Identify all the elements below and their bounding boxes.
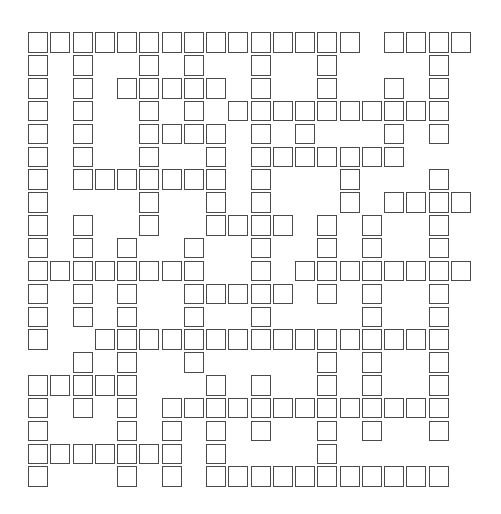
crossword-cell[interactable] bbox=[73, 32, 93, 53]
crossword-cell[interactable] bbox=[28, 169, 48, 190]
crossword-cell[interactable] bbox=[206, 215, 226, 236]
crossword-cell[interactable] bbox=[251, 78, 271, 99]
crossword-cell[interactable] bbox=[362, 329, 382, 350]
crossword-cell[interactable] bbox=[162, 398, 182, 419]
crossword-cell[interactable] bbox=[406, 101, 426, 122]
crossword-cell[interactable] bbox=[340, 398, 360, 419]
crossword-cell[interactable] bbox=[117, 261, 137, 282]
crossword-cell[interactable] bbox=[251, 101, 271, 122]
crossword-cell[interactable] bbox=[251, 124, 271, 145]
crossword-cell[interactable] bbox=[28, 124, 48, 145]
crossword-cell[interactable] bbox=[273, 32, 293, 53]
crossword-cell[interactable] bbox=[28, 421, 48, 442]
crossword-cell[interactable] bbox=[228, 215, 248, 236]
crossword-cell[interactable] bbox=[28, 375, 48, 396]
crossword-cell[interactable] bbox=[429, 192, 449, 213]
crossword-cell[interactable] bbox=[340, 169, 360, 190]
crossword-cell[interactable] bbox=[429, 215, 449, 236]
crossword-cell[interactable] bbox=[162, 32, 182, 53]
crossword-cell[interactable] bbox=[317, 147, 337, 168]
crossword-cell[interactable] bbox=[28, 147, 48, 168]
crossword-cell[interactable] bbox=[139, 329, 159, 350]
crossword-cell[interactable] bbox=[184, 352, 204, 373]
crossword-cell[interactable] bbox=[317, 421, 337, 442]
crossword-cell[interactable] bbox=[139, 261, 159, 282]
crossword-cell[interactable] bbox=[184, 32, 204, 53]
crossword-cell[interactable] bbox=[317, 375, 337, 396]
crossword-cell[interactable] bbox=[184, 55, 204, 76]
crossword-cell[interactable] bbox=[340, 32, 360, 53]
crossword-cell[interactable] bbox=[117, 398, 137, 419]
crossword-cell[interactable] bbox=[251, 32, 271, 53]
crossword-cell[interactable] bbox=[317, 78, 337, 99]
crossword-cell[interactable] bbox=[251, 329, 271, 350]
crossword-cell[interactable] bbox=[184, 124, 204, 145]
crossword-cell[interactable] bbox=[95, 169, 115, 190]
crossword-cell[interactable] bbox=[362, 284, 382, 305]
crossword-cell[interactable] bbox=[206, 444, 226, 465]
crossword-cell[interactable] bbox=[362, 421, 382, 442]
crossword-cell[interactable] bbox=[273, 398, 293, 419]
crossword-cell[interactable] bbox=[206, 421, 226, 442]
crossword-cell[interactable] bbox=[28, 444, 48, 465]
crossword-cell[interactable] bbox=[73, 101, 93, 122]
crossword-cell[interactable] bbox=[251, 421, 271, 442]
crossword-cell[interactable] bbox=[340, 101, 360, 122]
crossword-cell[interactable] bbox=[50, 32, 70, 53]
crossword-cell[interactable] bbox=[139, 147, 159, 168]
crossword-cell[interactable] bbox=[362, 375, 382, 396]
crossword-cell[interactable] bbox=[184, 398, 204, 419]
crossword-cell[interactable] bbox=[206, 192, 226, 213]
crossword-cell[interactable] bbox=[139, 169, 159, 190]
crossword-cell[interactable] bbox=[451, 192, 471, 213]
crossword-cell[interactable] bbox=[73, 261, 93, 282]
crossword-cell[interactable] bbox=[429, 261, 449, 282]
crossword-cell[interactable] bbox=[206, 124, 226, 145]
crossword-cell[interactable] bbox=[28, 101, 48, 122]
crossword-cell[interactable] bbox=[28, 261, 48, 282]
crossword-cell[interactable] bbox=[206, 466, 226, 487]
crossword-cell[interactable] bbox=[251, 147, 271, 168]
crossword-cell[interactable] bbox=[384, 101, 404, 122]
crossword-cell[interactable] bbox=[162, 466, 182, 487]
crossword-cell[interactable] bbox=[362, 398, 382, 419]
crossword-cell[interactable] bbox=[228, 32, 248, 53]
crossword-cell[interactable] bbox=[384, 329, 404, 350]
crossword-cell[interactable] bbox=[28, 32, 48, 53]
crossword-cell[interactable] bbox=[251, 238, 271, 259]
crossword-cell[interactable] bbox=[429, 124, 449, 145]
crossword-cell[interactable] bbox=[429, 466, 449, 487]
crossword-cell[interactable] bbox=[206, 375, 226, 396]
crossword-cell[interactable] bbox=[162, 329, 182, 350]
crossword-cell[interactable] bbox=[362, 101, 382, 122]
crossword-cell[interactable] bbox=[317, 215, 337, 236]
crossword-cell[interactable] bbox=[117, 444, 137, 465]
crossword-cell[interactable] bbox=[117, 466, 137, 487]
crossword-cell[interactable] bbox=[139, 32, 159, 53]
crossword-cell[interactable] bbox=[206, 169, 226, 190]
crossword-cell[interactable] bbox=[429, 55, 449, 76]
crossword-cell[interactable] bbox=[50, 444, 70, 465]
crossword-cell[interactable] bbox=[251, 307, 271, 328]
crossword-cell[interactable] bbox=[384, 124, 404, 145]
crossword-cell[interactable] bbox=[117, 78, 137, 99]
crossword-cell[interactable] bbox=[384, 192, 404, 213]
crossword-cell[interactable] bbox=[251, 215, 271, 236]
crossword-cell[interactable] bbox=[139, 444, 159, 465]
crossword-cell[interactable] bbox=[73, 375, 93, 396]
crossword-cell[interactable] bbox=[73, 147, 93, 168]
crossword-cell[interactable] bbox=[95, 261, 115, 282]
crossword-cell[interactable] bbox=[362, 238, 382, 259]
crossword-cell[interactable] bbox=[162, 78, 182, 99]
crossword-cell[interactable] bbox=[139, 215, 159, 236]
crossword-cell[interactable] bbox=[251, 192, 271, 213]
crossword-cell[interactable] bbox=[340, 466, 360, 487]
crossword-cell[interactable] bbox=[295, 329, 315, 350]
crossword-cell[interactable] bbox=[228, 466, 248, 487]
crossword-cell[interactable] bbox=[273, 147, 293, 168]
crossword-cell[interactable] bbox=[184, 169, 204, 190]
crossword-cell[interactable] bbox=[295, 398, 315, 419]
crossword-cell[interactable] bbox=[362, 307, 382, 328]
crossword-cell[interactable] bbox=[73, 169, 93, 190]
crossword-cell[interactable] bbox=[362, 215, 382, 236]
